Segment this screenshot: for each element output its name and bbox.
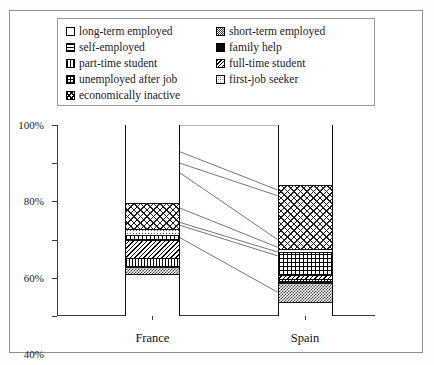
bar-segment[interactable] [279,185,332,250]
bar-spain[interactable] [278,125,333,316]
legend-item-label: part-time student [79,55,157,71]
legend-item-label: unemployed after job [79,71,177,87]
legend-swatch-diag-icon [216,59,225,68]
y-tick-mark: 100% [52,125,57,126]
y-tick-mark: 0% [52,316,57,317]
x-axis-label: France [135,331,169,346]
legend-items: long-term employedshort-term employedsel… [66,23,370,103]
bar-france[interactable] [125,125,180,316]
connector-line [180,238,278,292]
legend-item-label: first-job seeker [229,71,298,87]
connector-line [180,173,278,240]
y-tick-label: 80% [24,195,44,207]
legend-swatch-xhatch-icon [66,91,75,100]
legend-item[interactable]: full-time student [216,55,370,71]
legend-item-label: full-time student [229,55,305,71]
legend-swatch-vlines-icon [66,59,75,68]
connector-line [180,222,278,252]
plot-area: 0%20%40%60%80%100% FranceSpain [57,125,375,316]
legend-swatch-checker-icon [216,27,225,36]
legend-swatch-solid-icon [216,43,225,52]
legend-item-label: economically inactive [79,87,180,103]
legend-item-label: family help [229,39,282,55]
legend-item[interactable]: unemployed after job [66,71,216,87]
legend-swatch-dots-icon [216,75,225,84]
connector-line [180,152,278,190]
y-tick-mark: 40% [52,240,57,241]
legend-item[interactable]: family help [216,39,370,55]
legend-item-label: short-term employed [229,23,325,39]
y-tick-mark: 20% [52,278,57,279]
connector-line [180,163,278,195]
y-tick-label: 60% [24,272,44,284]
connector-line [180,208,278,247]
legend-item[interactable]: economically inactive [66,87,216,103]
y-axis [57,125,58,316]
chart-legend: long-term employedshort-term employedsel… [57,18,375,106]
connector-line [180,225,278,256]
y-tick-mark: 80% [52,163,57,164]
legend-swatch-hlines-icon [66,43,75,52]
legend-item[interactable]: self-employed [66,39,216,55]
bar-segment[interactable] [126,203,179,230]
legend-item-label: long-term employed [79,23,173,39]
x-axis-label: Spain [291,331,319,346]
legend-item[interactable]: short-term employed [216,23,370,39]
legend-item-label: self-employed [79,39,145,55]
y-tick-label: 40% [24,348,44,360]
legend-swatch-blank-icon [66,27,75,36]
y-tick-mark: 60% [52,201,57,202]
legend-item[interactable]: long-term employed [66,23,216,39]
y-tick-label: 100% [18,119,44,131]
legend-item[interactable]: part-time student [66,55,216,71]
chart-page: long-term employedshort-term employedsel… [0,0,434,365]
legend-item[interactable]: first-job seeker [216,71,370,87]
legend-swatch-grid-icon [66,75,75,84]
